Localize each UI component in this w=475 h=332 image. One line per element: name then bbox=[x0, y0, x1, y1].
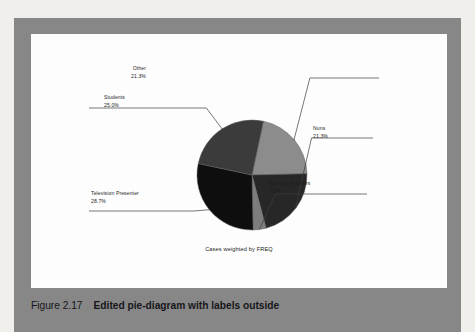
pie-label-nuns-text: Nuns bbox=[313, 125, 325, 131]
pie-label-students: Students 25.0% bbox=[104, 95, 164, 108]
pie-label-television-presenter-percent: 28.7% bbox=[91, 199, 177, 204]
figure-title: Edited pie-diagram with labels outside bbox=[94, 300, 280, 311]
pie-label-nursery-teachers-text: Nursery Teachers bbox=[269, 180, 310, 186]
page-background: Other 21.3% Nuns 21.3% Nursery Teachers … bbox=[0, 0, 475, 332]
figure-number: Figure 2.17 bbox=[31, 300, 83, 311]
figure-caption: Figure 2.17Edited pie-diagram with label… bbox=[31, 300, 279, 311]
figure-panel: Other 21.3% Nuns 21.3% Nursery Teachers … bbox=[14, 18, 461, 332]
pie-label-other-text: Other bbox=[133, 65, 146, 71]
pie-label-students-text: Students bbox=[104, 94, 125, 100]
leader-line bbox=[89, 210, 210, 211]
pie-label-television-presenter: Television Presenter 28.7% bbox=[91, 191, 177, 204]
pie-label-nursery-teachers-percent: 3.8% bbox=[269, 189, 349, 194]
pie-slices bbox=[197, 120, 307, 230]
pie-label-other-percent: 21.3% bbox=[91, 74, 146, 79]
pie-label-nursery-teachers: Nursery Teachers 3.8% bbox=[269, 181, 349, 194]
leader-line bbox=[89, 108, 222, 129]
chart-canvas: Other 21.3% Nuns 21.3% Nursery Teachers … bbox=[31, 34, 447, 288]
pie-label-television-presenter-text: Television Presenter bbox=[91, 190, 139, 196]
pie-label-nuns-percent: 21.3% bbox=[313, 134, 373, 139]
chart-footnote: Cases weighted by FREQ bbox=[31, 246, 447, 252]
pie-label-students-percent: 25.0% bbox=[104, 103, 164, 108]
pie-label-nuns: Nuns 21.3% bbox=[313, 126, 373, 139]
pie-label-other: Other 21.3% bbox=[91, 66, 146, 79]
